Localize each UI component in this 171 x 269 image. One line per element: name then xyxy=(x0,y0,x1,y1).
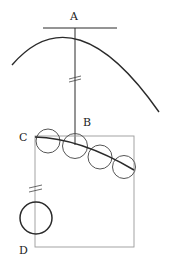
label-c: C xyxy=(19,131,27,144)
circle-d xyxy=(20,202,52,234)
label-a: A xyxy=(69,10,79,23)
label-d: D xyxy=(19,244,28,257)
diagram-canvas: A B C D xyxy=(0,0,171,269)
equal-marks-cd xyxy=(29,185,42,192)
outer-arc xyxy=(12,37,159,112)
label-b: B xyxy=(83,116,91,129)
